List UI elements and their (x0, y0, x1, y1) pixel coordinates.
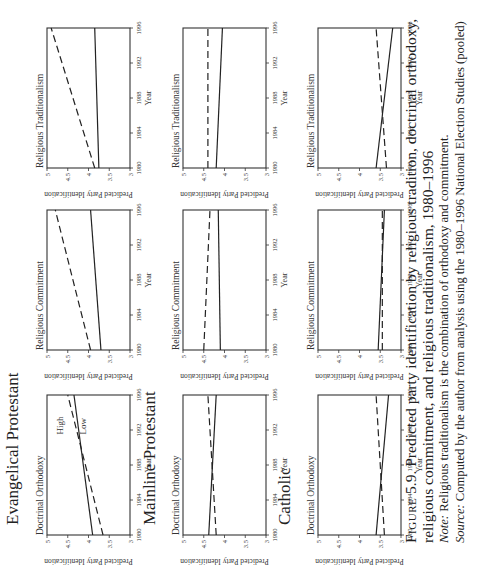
series-line-low (95, 28, 99, 168)
figure-note: Note: Religious traditionalism is the co… (436, 13, 452, 543)
figure-label-number: 5.9. (402, 471, 419, 494)
note-label: Note: (437, 515, 451, 543)
y-tick-label: 4 (85, 172, 92, 176)
y-axis-label: Predicted Party Identification (44, 372, 133, 381)
x-tick-label: 1984 (271, 493, 278, 507)
plot-frame (318, 395, 401, 535)
series-line-high (68, 395, 103, 535)
panel-subtitle: Religious Commitment (35, 261, 45, 350)
y-axis-label: Predicted Party Identification (315, 557, 404, 566)
chart-panel-2-1: Doctrinal Orthodoxy198019841988199219963… (169, 385, 292, 575)
series-line-low (376, 395, 388, 535)
y-axis-label: Predicted Party Identification (315, 190, 404, 199)
x-tick-label: 1992 (135, 239, 142, 252)
plot-frame (318, 28, 401, 168)
chart-panel-1-1: Doctrinal Orthodoxy198019841988199219963… (33, 385, 156, 575)
x-tick-label: 1980 (135, 344, 142, 357)
y-tick-label: 4 (221, 539, 228, 543)
x-tick-label: 1980 (271, 344, 278, 357)
x-tick-label: 1988 (271, 274, 278, 287)
x-tick-label: 1996 (271, 21, 278, 35)
x-tick-label: 1988 (135, 92, 142, 105)
x-axis-label: Year (280, 90, 289, 105)
x-tick-label: 1988 (135, 274, 142, 287)
x-tick-label: 1984 (135, 308, 142, 322)
y-tick-label: 5 (315, 173, 322, 176)
y-tick-label: 3 (263, 173, 270, 176)
y-axis-label: Predicted Party Identification (180, 557, 269, 566)
y-tick-label: 5 (315, 355, 322, 358)
series-line-low (91, 210, 101, 350)
y-tick-label: 3.5 (106, 355, 113, 363)
y-tick-label: 3.5 (377, 355, 384, 363)
x-tick-label: 1992 (271, 239, 278, 252)
x-tick-label: 1984 (135, 493, 142, 507)
y-axis-label: Predicted Party Identification (180, 190, 269, 199)
y-tick-label: 4 (356, 539, 363, 543)
series-line-high (55, 210, 90, 350)
chart-panel-1-3: Religious Traditionalism1980198419881992… (33, 18, 156, 208)
y-tick-label: 3 (127, 355, 134, 358)
y-tick-label: 3.5 (106, 540, 113, 548)
panel-subtitle: Religious Commitment (171, 261, 181, 350)
x-tick-label: 1996 (135, 21, 142, 35)
series-line-low (378, 210, 384, 350)
panel-subtitle: Religious Traditionalism (306, 73, 316, 168)
x-tick-label: 1984 (271, 126, 278, 140)
y-tick-label: 3.5 (377, 173, 384, 181)
annotation-high: High (55, 416, 65, 435)
y-tick-label: 3.5 (242, 355, 249, 363)
y-axis-label: Predicted Party Identification (180, 372, 269, 381)
source-label: Source: (453, 504, 467, 543)
figure-page: Evangelical Protestant Mainline Protesta… (0, 0, 494, 583)
x-tick-label: 1980 (135, 529, 142, 542)
y-tick-label: 5 (180, 355, 187, 358)
y-tick-label: 3 (127, 173, 134, 176)
y-tick-label: 4.5 (335, 173, 342, 181)
x-tick-label: 1988 (271, 92, 278, 105)
x-tick-label: 1988 (271, 459, 278, 472)
panel-subtitle: Doctrinal Orthodoxy (306, 455, 316, 535)
x-tick-label: 1980 (271, 162, 278, 175)
series-line-high (204, 210, 210, 350)
chart-panel-1-2: Religious Commitment19801984198819921996… (33, 200, 156, 390)
figure-title: Figure 5.9. Predicted party identificati… (402, 13, 436, 543)
panel-subtitle: Religious Traditionalism (35, 73, 45, 168)
y-tick-label: 5 (44, 540, 51, 543)
plot-frame (183, 28, 266, 168)
source-text: Computed by the author from analysis usi… (453, 21, 467, 501)
y-tick-label: 3.5 (242, 173, 249, 181)
figure-title-line1: Predicted party identification by religi… (402, 19, 419, 467)
series-line-low (74, 395, 93, 535)
x-axis-label: Year (144, 90, 153, 105)
y-tick-label: 5 (44, 173, 51, 176)
y-tick-label: 3 (263, 355, 270, 358)
x-tick-label: 1992 (135, 424, 142, 437)
series-line-high (51, 28, 95, 168)
plot-frame (47, 28, 130, 168)
note-text: Religious traditionalism is the combinat… (437, 134, 451, 511)
y-tick-label: 4.5 (335, 540, 342, 548)
y-tick-label: 4.5 (200, 540, 207, 548)
x-tick-label: 1980 (271, 529, 278, 542)
panel-subtitle: Doctrinal Orthodoxy (171, 455, 181, 535)
y-tick-label: 5 (315, 540, 322, 543)
y-tick-label: 3 (263, 540, 270, 543)
figure-source: Source: Computed by the author from anal… (452, 13, 468, 543)
y-tick-label: 4.5 (200, 173, 207, 181)
y-tick-label: 4 (356, 172, 363, 176)
x-axis-label: Year (144, 272, 153, 287)
y-tick-label: 4.5 (335, 355, 342, 363)
plot-frame (47, 210, 130, 350)
y-tick-label: 5 (180, 173, 187, 176)
x-tick-label: 1980 (135, 162, 142, 175)
y-tick-label: 4.5 (64, 540, 71, 548)
y-tick-label: 4 (221, 354, 228, 358)
panel-subtitle: Doctrinal Orthodoxy (35, 455, 45, 535)
x-tick-label: 1992 (271, 424, 278, 437)
series-line-high (376, 395, 384, 535)
chart-panel-2-3: Religious Traditionalism1980198419881992… (169, 18, 292, 208)
figure-caption: Figure 5.9. Predicted party identificati… (402, 13, 468, 543)
plot-frame (183, 395, 266, 535)
panel-subtitle: Religious Commitment (306, 261, 316, 350)
